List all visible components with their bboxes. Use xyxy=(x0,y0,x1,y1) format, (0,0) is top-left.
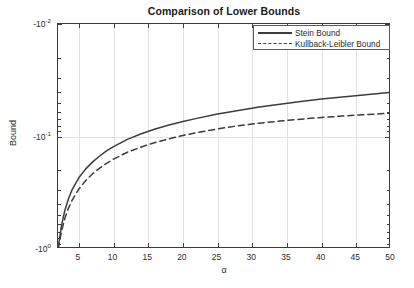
y-tick-label: -100 xyxy=(11,242,51,254)
x-tick-label: 5 xyxy=(63,252,93,262)
legend-label-kullback-leibler-bound: Kullback-Leibler Bound xyxy=(295,38,380,50)
legend: Stein Bound Kullback-Leibler Bound xyxy=(253,25,390,50)
series-line-kullback-leibler-bound xyxy=(58,113,389,247)
x-tick-label: 15 xyxy=(132,252,162,262)
x-tick-label: 25 xyxy=(202,252,232,262)
x-axis-label: α xyxy=(57,265,391,275)
legend-line-sample-solid xyxy=(258,32,292,34)
x-tick-label: 35 xyxy=(271,252,301,262)
x-tick-label: 40 xyxy=(306,252,336,262)
x-tick-label: 10 xyxy=(98,252,128,262)
curve-layer xyxy=(58,24,389,247)
figure-canvas: Comparison of Lower Bounds Bound α 51015… xyxy=(0,0,414,288)
legend-line-sample-dashed xyxy=(258,43,292,44)
plot-inner xyxy=(58,24,389,247)
x-tick-label: 30 xyxy=(236,252,266,262)
y-tick-label: -10-1 xyxy=(11,130,51,142)
y-tick-label: -10-2 xyxy=(11,17,51,29)
x-tick-label: 45 xyxy=(340,252,370,262)
legend-item-kullback-leibler-bound: Kullback-Leibler Bound xyxy=(254,38,389,50)
chart-title: Comparison of Lower Bounds xyxy=(57,5,391,17)
x-tick-label: 50 xyxy=(375,252,405,262)
x-tick-label: 20 xyxy=(167,252,197,262)
plot-area xyxy=(57,23,390,248)
